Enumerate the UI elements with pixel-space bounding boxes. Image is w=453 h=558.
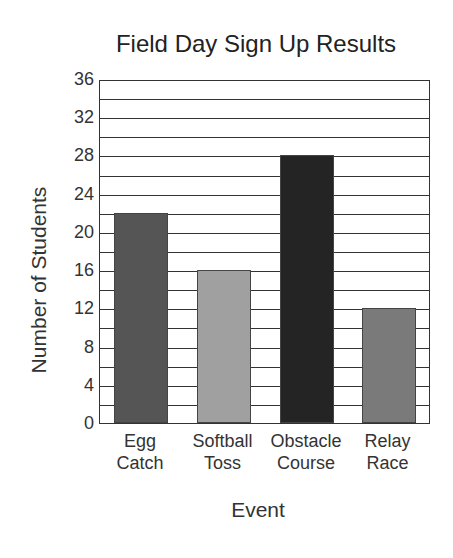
gridline (100, 99, 429, 100)
bar-relay-race (362, 308, 416, 423)
y-tick-label: 28 (60, 145, 94, 166)
plot-area (99, 80, 430, 424)
bar-egg-catch (114, 213, 168, 423)
y-tick-label: 0 (60, 413, 94, 434)
y-tick-label: 24 (60, 184, 94, 205)
gridline (100, 156, 429, 157)
gridline (100, 176, 429, 177)
x-category-label: RelayRace (338, 430, 438, 474)
y-tick-label: 12 (60, 298, 94, 319)
bar-obstacle-course (280, 155, 334, 423)
y-tick-label: 20 (60, 222, 94, 243)
y-tick-label: 8 (60, 337, 94, 358)
gridline (100, 195, 429, 196)
gridline (100, 118, 429, 119)
y-tick-label: 16 (60, 260, 94, 281)
y-tick-label: 4 (60, 375, 94, 396)
gridline (100, 137, 429, 138)
y-tick-label: 32 (60, 107, 94, 128)
chart-title: Field Day Sign Up Results (0, 30, 453, 58)
y-tick-label: 36 (60, 69, 94, 90)
bar-softball-toss (197, 270, 251, 423)
x-axis-label: Event (208, 498, 308, 522)
y-axis-label: Number of Students (27, 165, 51, 395)
